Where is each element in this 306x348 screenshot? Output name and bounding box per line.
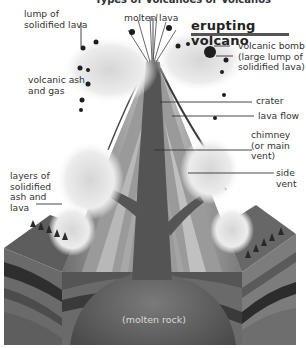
- label-layers-of-ash-and-lava: layers of solidified ash and lava: [10, 171, 51, 213]
- label-lava-flow: lava flow: [258, 111, 299, 122]
- label-side-vent: side vent: [276, 168, 297, 189]
- label-lump-of-solidified-lava: lump of solidified lava: [24, 9, 87, 30]
- volcano-diagram: Types of Volcanoes or Volcanos erupting …: [0, 0, 306, 348]
- label-molten-rock: (molten rock): [122, 314, 186, 325]
- label-volcanic-ash-and-gas: volcanic ash and gas: [28, 75, 85, 96]
- label-crater: crater: [256, 96, 284, 107]
- page-heading: Types of Volcanoes or Volcanos: [95, 0, 271, 5]
- title-underline: [191, 33, 289, 36]
- label-chimney: chimney (or main vent): [251, 130, 290, 162]
- label-volcanic-bomb: volcanic bomb (large lump of solidified …: [238, 41, 305, 73]
- label-molten-lava: molten lava: [124, 13, 178, 24]
